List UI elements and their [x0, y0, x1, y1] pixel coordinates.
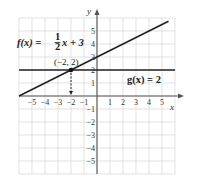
x-tick-label: −2 [67, 98, 76, 107]
y-tick-label: −3 [86, 131, 95, 140]
x-tick-label: 5 [160, 98, 164, 107]
y-tick-label: −5 [86, 157, 95, 166]
g-equation-label: g(x) = 2 [127, 74, 161, 86]
y-tick-label: 1 [91, 79, 95, 88]
x-tick-label: 1 [108, 98, 112, 107]
f-label-denominator: 2 [55, 41, 60, 52]
x-tick-label: 3 [134, 98, 138, 107]
x-tick-label: 2 [121, 98, 125, 107]
y-tick-label: −2 [86, 118, 95, 127]
coordinate-graph: −5−4−3−2−112345−5−4−3−2−112345 x y f(x) … [0, 0, 200, 190]
f-label-suffix: x + 3 [61, 37, 84, 48]
intersection-point-label: (−2, 2) [54, 57, 79, 67]
y-axis-label: y [86, 6, 91, 16]
f-equation-label: f(x) = 1 2 x + 3 [17, 31, 84, 52]
y-tick-label: −1 [86, 105, 95, 114]
f-label-prefix: f(x) = [17, 37, 41, 49]
x-tick-label: −5 [28, 98, 37, 107]
y-axis-arrow-icon [95, 9, 100, 15]
y-tick-label: 4 [91, 40, 95, 49]
x-tick-label: 4 [147, 98, 151, 107]
x-axis-label: x [169, 102, 174, 112]
intersection-point [69, 68, 74, 73]
y-tick-label: 5 [91, 27, 95, 36]
x-axis-arrow-icon [178, 94, 184, 99]
y-tick-label: −4 [86, 144, 95, 153]
down-arrow-icon [69, 91, 73, 95]
x-tick-label: −3 [54, 98, 63, 107]
axes [19, 9, 184, 174]
x-tick-label: −4 [41, 98, 50, 107]
